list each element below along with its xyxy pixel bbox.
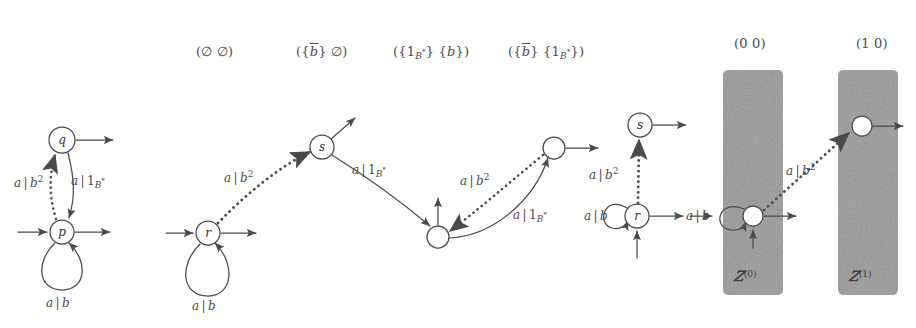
a2-selfloop-r	[186, 243, 229, 296]
a3-state-node-b	[543, 137, 565, 159]
edge-label-a1-ab: a | b	[46, 296, 70, 310]
state-label-s-a2: s	[315, 140, 329, 154]
edge-label-a3-b2: a | b2	[460, 172, 489, 188]
a2-s-output-arrow	[331, 118, 355, 139]
automata-figure: (∅ ∅) ({b} ∅) ({1B*} {b}) ({b} {1B*}) (0…	[0, 0, 916, 328]
state-label-q: q	[55, 133, 69, 147]
panel-caption-z0: 𝑍(0)	[734, 268, 756, 284]
edge-label-a1-b2: a | b2	[14, 174, 43, 190]
graph-strokes	[0, 0, 916, 328]
edge-label-a1-1bstar: a | 1B*	[71, 174, 105, 190]
z1-state-node	[852, 116, 872, 136]
a1-edge-p-to-q	[51, 155, 56, 219]
edge-label-a2-ab: a | b	[192, 299, 216, 313]
edge-label-a2-b2: a | b2	[224, 169, 253, 185]
state-label-r-a4: r	[630, 209, 644, 223]
edge-label-a4-ab: a | b	[584, 209, 608, 223]
edge-label-cross-panel-b2: a | b2	[786, 162, 815, 178]
panel-caption-z1: 𝑍(1)	[849, 268, 871, 284]
edge-label-a4-b2: a | b2	[589, 166, 618, 182]
state-label-p: p	[55, 225, 69, 239]
z0-selfloop	[720, 207, 746, 231]
a4-edge-r-to-s	[638, 140, 639, 203]
state-label-s-a4: s	[633, 118, 647, 132]
edge-label-a3-1bstar-lower: a | 1B*	[513, 208, 547, 224]
a1-selfloop-p	[42, 243, 82, 290]
z0-state-node	[743, 206, 763, 226]
edge-label-a3-1bstar-upper: a | 1B*	[352, 163, 386, 179]
edge-label-z0-ab: a | b	[686, 209, 710, 223]
a3-state-node-a	[427, 226, 449, 248]
a2-edge-r-to-s	[218, 152, 310, 223]
state-label-r-a2: r	[201, 226, 215, 240]
a3-edge-a-to-b-solid	[449, 158, 548, 238]
